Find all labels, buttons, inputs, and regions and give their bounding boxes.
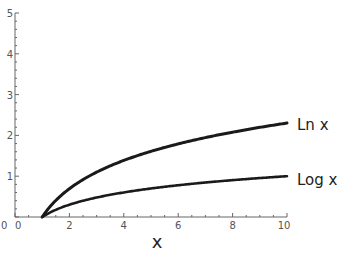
curves (42, 123, 287, 217)
y-tick-label: 4 (7, 49, 13, 60)
x-tick-label: 2 (66, 220, 72, 231)
log-chart: 024681012345 0 Ln x Log x x (0, 0, 343, 259)
x-axis-title: x (152, 231, 163, 252)
y-tick-label: 3 (7, 90, 13, 101)
series-label-ln: Ln x (297, 116, 329, 134)
y-origin-label: 0 (1, 220, 7, 231)
y-tick-label: 5 (7, 8, 13, 19)
x-tick-label: 10 (278, 220, 291, 231)
x-tick-label: 8 (229, 220, 235, 231)
x-tick-label: 4 (121, 220, 127, 231)
series-label-log: Log x (297, 171, 338, 189)
y-tick-label: 1 (7, 171, 13, 182)
y-tick-label: 2 (7, 130, 13, 141)
x-tick-label: 6 (175, 220, 181, 231)
axes: 024681012345 (7, 8, 291, 231)
x-tick-label: 0 (15, 220, 21, 231)
